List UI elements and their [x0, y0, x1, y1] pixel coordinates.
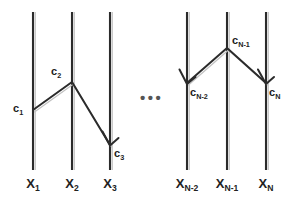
axis-label-x1-base: X — [26, 176, 35, 191]
axis-label-x2: X2 — [65, 177, 79, 190]
world-line-group-1 — [33, 12, 35, 170]
node-label-cn-2: cN-2 — [190, 87, 208, 98]
axis-label-xn-1-base: X — [216, 176, 225, 191]
node-label-cn-2-sub: N-2 — [196, 92, 208, 101]
node-label-cn: cN — [269, 87, 280, 98]
node-label-c3-sub: 3 — [120, 153, 124, 162]
axis-label-x2-sub: 2 — [74, 183, 79, 193]
edge-c2-c3 — [72, 82, 119, 147]
node-label-c2-sub: 2 — [57, 71, 61, 80]
axis-label-xn-1: XN-1 — [216, 177, 239, 190]
axis-label-x3-sub: 3 — [112, 183, 117, 193]
axis-label-xn-sub: N — [267, 183, 273, 193]
axis-label-xn-2-base: X — [176, 176, 185, 191]
edge-c1-c2 — [33, 82, 74, 112]
axis-label-x1-sub: 1 — [35, 183, 40, 193]
world-line-group-5 — [227, 12, 229, 170]
axis-label-xn-2: XN-2 — [176, 177, 199, 190]
node-label-c1: c1 — [13, 103, 23, 114]
node-label-cn-sub: N — [275, 92, 280, 101]
node-label-c2: c2 — [51, 66, 61, 77]
world-line-group-6 — [266, 12, 268, 170]
axis-label-xn: XN — [259, 177, 274, 190]
axis-label-x2-base: X — [65, 176, 74, 191]
axis-label-x3: X3 — [103, 177, 117, 190]
axis-label-x3-base: X — [103, 176, 112, 191]
worldline-diagram: ••• c1 c2 c3 cN-2 cN-1 cN X1 X2 X3 XN-2 … — [0, 0, 294, 202]
ellipsis: ••• — [140, 90, 163, 105]
axis-label-x1: X1 — [26, 177, 40, 190]
axis-label-xn-base: X — [259, 176, 268, 191]
world-line-group-2 — [72, 12, 74, 170]
node-label-cn-1: cN-1 — [232, 35, 250, 46]
node-label-c3: c3 — [114, 148, 124, 159]
axis-label-xn-1-sub: N-1 — [224, 183, 238, 193]
world-line-group-4 — [187, 12, 189, 170]
node-label-c1-sub: 1 — [19, 108, 23, 117]
axis-label-xn-2-sub: N-2 — [184, 183, 198, 193]
node-label-cn-1-sub: N-1 — [238, 40, 250, 49]
